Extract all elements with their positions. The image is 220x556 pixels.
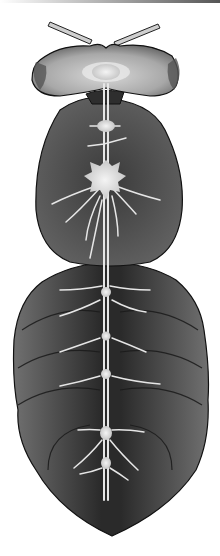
insect-illustration [0, 0, 220, 556]
antennae [48, 22, 160, 46]
abdomen [14, 262, 209, 536]
